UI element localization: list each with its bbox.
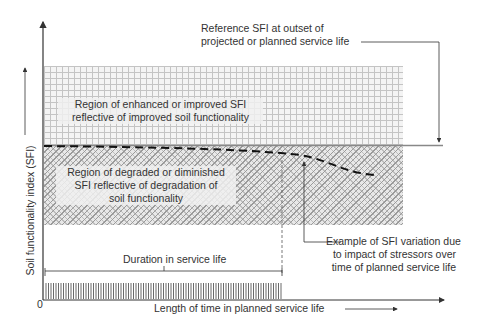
duration-label: Duration in service life xyxy=(123,253,226,266)
y-axis-label: Soil functionality index (SFI) xyxy=(24,131,37,291)
reference-line-2: projected or planned service life xyxy=(201,35,349,48)
example-line-2: to impact of stressors over xyxy=(326,248,456,261)
x-axis-ticks xyxy=(46,283,281,299)
example-line-1: Example of SFI variation due xyxy=(326,235,456,248)
diagram-lines xyxy=(0,0,480,328)
example-line-3: time of planned service life xyxy=(326,261,456,274)
x-axis-label: Length of time in planned service life xyxy=(154,302,324,315)
example-annotation: Example of SFI variation due to impact o… xyxy=(326,235,456,274)
example-leader xyxy=(304,162,341,242)
reference-annotation: Reference SFI at outset of projected or … xyxy=(201,22,349,48)
sfi-variation-curve xyxy=(44,146,375,175)
origin-label: 0 xyxy=(37,298,43,311)
reference-leader xyxy=(361,42,439,142)
reference-line-1: Reference SFI at outset of xyxy=(201,22,349,35)
